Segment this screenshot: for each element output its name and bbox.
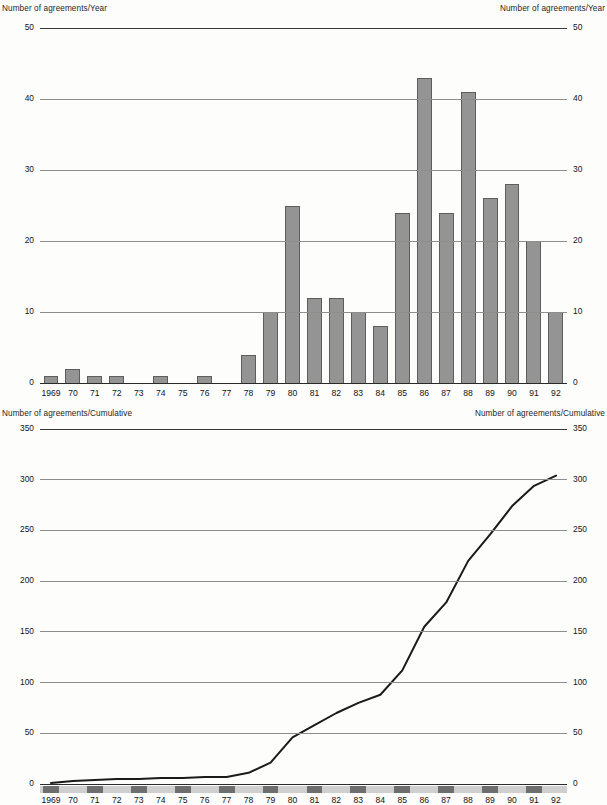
bar-cell-84: [369, 28, 391, 383]
gridline-0: [40, 784, 567, 785]
band-cell-77: [216, 786, 238, 793]
band-mark-87: [438, 786, 454, 793]
gridline-10: [40, 312, 567, 313]
x-label-78: 78: [238, 795, 260, 805]
bar-chart-plot: 0010102020303040405050: [40, 28, 567, 383]
x-label-77: 77: [216, 795, 238, 805]
band-mark-75: [175, 786, 191, 793]
x-label-86: 86: [413, 795, 435, 805]
bar-cell-88: [457, 28, 479, 383]
band-cell-84: [369, 786, 391, 793]
bar-87: [439, 213, 454, 383]
gridline-0: [40, 383, 567, 384]
band-cell-76: [194, 786, 216, 793]
bar-cell-75: [172, 28, 194, 383]
y-tick-left-40: 40: [25, 94, 34, 102]
bar-90: [505, 184, 520, 383]
y-tick-right-10: 10: [573, 307, 582, 315]
bar-cell-80: [281, 28, 303, 383]
x-label-88: 88: [457, 795, 479, 805]
x-label-89: 89: [479, 795, 501, 805]
band-mark-1969: [43, 786, 59, 793]
y-tick-right-300: 300: [573, 475, 587, 483]
y-tick-right-30: 30: [573, 165, 582, 173]
x-label-70: 70: [62, 388, 84, 398]
x-label-75: 75: [172, 795, 194, 805]
y-tick-right-20: 20: [573, 236, 582, 244]
band-mark-71: [87, 786, 103, 793]
y-tick-left-50: 50: [25, 728, 34, 736]
x-label-91: 91: [523, 388, 545, 398]
gridline-300: [40, 479, 567, 480]
x-label-91: 91: [523, 795, 545, 805]
band-cell-82: [325, 786, 347, 793]
x-label-79: 79: [260, 388, 282, 398]
bar-chart-title-right: Number of agreements/Year: [500, 4, 605, 13]
y-tick-right-50: 50: [573, 728, 582, 736]
gridline-50: [40, 28, 567, 29]
x-label-84: 84: [369, 795, 391, 805]
bar-cell-1969: [40, 28, 62, 383]
gridline-20: [40, 241, 567, 242]
line-chart-x-axis-labels: 1969707172737475767778798081828384858687…: [40, 795, 567, 805]
band-cell-72: [106, 786, 128, 793]
band-mark-79: [263, 786, 279, 793]
x-label-76: 76: [194, 388, 216, 398]
gridline-100: [40, 682, 567, 683]
band-mark-89: [482, 786, 498, 793]
x-label-82: 82: [325, 388, 347, 398]
y-tick-right-50: 50: [573, 23, 582, 31]
y-tick-left-10: 10: [25, 307, 34, 315]
band-cell-89: [479, 786, 501, 793]
y-tick-left-20: 20: [25, 236, 34, 244]
x-label-77: 77: [216, 388, 238, 398]
band-mark-85: [394, 786, 410, 793]
x-label-73: 73: [128, 388, 150, 398]
x-label-81: 81: [303, 388, 325, 398]
band-cell-91: [523, 786, 545, 793]
line-chart-panel: Number of agreements/Cumulative Number o…: [0, 405, 607, 805]
bar-cell-79: [260, 28, 282, 383]
gridline-200: [40, 581, 567, 582]
y-tick-left-50: 50: [25, 23, 34, 31]
bar-chart-title-left: Number of agreements/Year: [2, 4, 107, 13]
bar-cell-83: [347, 28, 369, 383]
x-label-83: 83: [347, 388, 369, 398]
bar-cell-91: [523, 28, 545, 383]
band-cell-70: [62, 786, 84, 793]
x-label-82: 82: [325, 795, 347, 805]
band-mark-77: [219, 786, 235, 793]
x-label-1969: 1969: [40, 388, 62, 398]
bar-85: [395, 213, 410, 383]
band-cell-78: [238, 786, 260, 793]
bar-78: [241, 355, 256, 383]
gridline-150: [40, 631, 567, 632]
band-cell-87: [435, 786, 457, 793]
y-tick-left-0: 0: [29, 779, 34, 787]
x-label-90: 90: [501, 388, 523, 398]
y-tick-right-100: 100: [573, 678, 587, 686]
y-tick-right-350: 350: [573, 424, 587, 432]
band-cell-85: [391, 786, 413, 793]
bar-cell-90: [501, 28, 523, 383]
bar-cell-77: [216, 28, 238, 383]
gridline-250: [40, 530, 567, 531]
gridline-40: [40, 99, 567, 100]
x-label-80: 80: [281, 388, 303, 398]
x-label-79: 79: [260, 795, 282, 805]
x-label-1969: 1969: [40, 795, 62, 805]
bar-92: [548, 312, 563, 383]
y-tick-left-30: 30: [25, 165, 34, 173]
line-chart-plot: 0050501001001501502002002502503003003503…: [40, 429, 567, 784]
y-tick-left-350: 350: [20, 424, 34, 432]
bar-cell-76: [194, 28, 216, 383]
bar-chart-panel: Number of agreements/Year Number of agre…: [0, 0, 607, 405]
bar-cell-78: [238, 28, 260, 383]
band-cell-73: [128, 786, 150, 793]
x-label-92: 92: [545, 388, 567, 398]
band-cell-71: [84, 786, 106, 793]
bar-chart-x-axis-labels: 1969707172737475767778798081828384858687…: [40, 388, 567, 398]
x-label-72: 72: [106, 388, 128, 398]
x-label-70: 70: [62, 795, 84, 805]
bar-79: [263, 312, 278, 383]
